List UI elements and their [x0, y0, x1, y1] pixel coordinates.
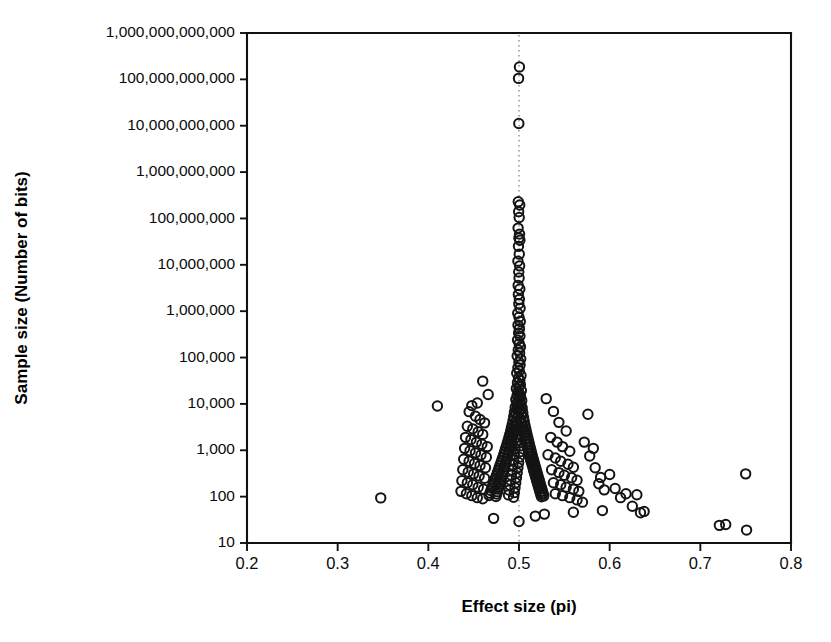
funnel-plot-figure: 101001,00010,000100,0001,000,00010,000,0…	[0, 0, 831, 642]
x-axis-tick-label: 0.6	[598, 554, 621, 572]
y-axis-tick-label: 100,000,000,000	[119, 69, 236, 86]
y-axis-tick-label: 10	[218, 533, 236, 550]
y-axis-tick-label: 1,000,000	[166, 301, 235, 318]
y-axis-tick-label: 1,000,000,000	[136, 162, 236, 179]
x-axis-tick-label: 0.2	[236, 554, 259, 572]
y-axis-tick-label: 10,000	[188, 394, 236, 411]
y-axis-tick-label: 100	[209, 487, 235, 504]
y-axis-tick-label: 100,000	[179, 348, 235, 365]
x-axis-tick-label: 0.3	[326, 554, 349, 572]
y-axis-tick-label: 10,000,000	[157, 255, 235, 272]
y-axis-tick-label: 1,000	[196, 440, 235, 457]
x-axis-tick-label: 0.7	[689, 554, 712, 572]
figure-background	[0, 0, 831, 642]
x-axis-tick-label: 0.5	[508, 554, 531, 572]
x-axis-title: Effect size (pi)	[461, 597, 576, 616]
y-axis-title: Sample size (Number of bits)	[12, 171, 31, 404]
y-axis-tick-label: 100,000,000	[149, 209, 236, 226]
x-axis-tick-label: 0.8	[780, 554, 803, 572]
scatter-plot-canvas: 101001,00010,000100,0001,000,00010,000,0…	[0, 0, 831, 642]
y-axis-tick-label: 10,000,000,000	[127, 116, 235, 133]
y-axis-tick-label: 1,000,000,000,000	[106, 23, 236, 40]
x-axis-tick-label: 0.4	[417, 554, 440, 572]
